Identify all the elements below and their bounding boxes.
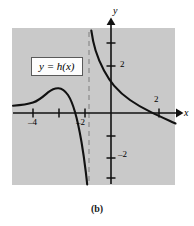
x-axis-label: x	[184, 108, 188, 118]
y-axis-arrowhead	[107, 18, 116, 26]
curve-right-branch	[91, 31, 175, 124]
y-tick-label-pos2: 2	[120, 60, 125, 69]
x-tick-label-pos2: 2	[154, 95, 159, 104]
graph-figure: y x –4 –2 2 2 –2 y = h(x) (b)	[0, 0, 194, 226]
y-axis-label: y	[113, 6, 117, 16]
y-tick-label-neg2: –2	[118, 150, 127, 159]
x-tick-label-neg4: –4	[28, 118, 37, 127]
function-label-box: y = h(x)	[31, 57, 83, 76]
x-tick-label-neg2: –2	[76, 118, 85, 127]
graph-canvas	[0, 0, 194, 226]
curve-left-branch	[13, 88, 87, 184]
figure-caption: (b)	[0, 203, 194, 214]
x-axis-arrowhead	[176, 109, 184, 118]
